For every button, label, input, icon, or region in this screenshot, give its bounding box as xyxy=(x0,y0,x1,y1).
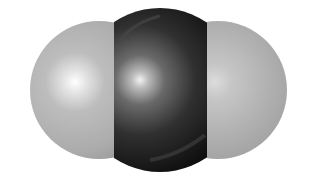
molecule-model xyxy=(0,0,315,180)
molecule-figure xyxy=(0,0,315,180)
